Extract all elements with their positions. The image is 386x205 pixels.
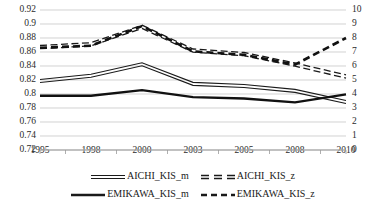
legend-swatch-icon [201, 189, 235, 201]
legend-label: EMIKAWA_KIS_m [107, 188, 188, 199]
series-line [40, 26, 346, 65]
legend-item[interactable]: EMIKAWA_KIS_z [201, 187, 315, 199]
series-stroke [40, 28, 346, 78]
legend-line-icon [201, 169, 235, 181]
legend-label: AICHI_KIS_z [237, 170, 295, 181]
legend-swatch-icon [201, 171, 235, 183]
legend-label: EMIKAWA_KIS_z [237, 188, 315, 199]
legend-line-icon [91, 169, 125, 181]
legend-row: AICHI_KIS_mAICHI_KIS_z [0, 166, 386, 184]
legend-swatch-icon [71, 189, 105, 201]
legend-line-icon [201, 187, 235, 199]
legend-item[interactable]: AICHI_KIS_m [91, 169, 189, 181]
legend-label: AICHI_KIS_m [127, 170, 189, 181]
legend-item[interactable]: AICHI_KIS_z [201, 169, 295, 181]
series-stroke [40, 25, 346, 75]
series-line [40, 90, 346, 102]
series-stroke [40, 90, 346, 102]
legend-row: EMIKAWA_KIS_mEMIKAWA_KIS_z [0, 184, 386, 202]
legend-line-icon [71, 187, 105, 199]
chart-container: 0.720.740.760.780.80.820.840.860.880.90.… [0, 0, 386, 205]
series-stroke [40, 26, 346, 65]
legend-item[interactable]: EMIKAWA_KIS_m [71, 187, 188, 199]
chart-legend: AICHI_KIS_mAICHI_KIS_zEMIKAWA_KIS_mEMIKA… [0, 166, 386, 202]
legend-swatch-icon [91, 171, 125, 183]
